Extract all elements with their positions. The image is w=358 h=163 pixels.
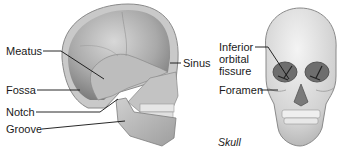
label-meatus: Meatus [6, 45, 42, 57]
groove-leader [42, 121, 125, 129]
anterior-skull [265, 8, 336, 146]
label-groove: Groove [6, 123, 42, 135]
label-foramen: Foramen [219, 84, 263, 96]
lateral-skull [62, 4, 178, 146]
label-fossa: Fossa [6, 84, 36, 96]
figure-caption: Skull [218, 136, 241, 148]
label-inferior-orbital-fissure: Inferior orbital fissure [219, 41, 253, 77]
label-sinus: Sinus [183, 57, 211, 69]
skull-illustrations [0, 0, 358, 163]
label-notch: Notch [6, 106, 35, 118]
skull-figure: Meatus Fossa Notch Groove Sinus Inferior… [0, 0, 358, 163]
